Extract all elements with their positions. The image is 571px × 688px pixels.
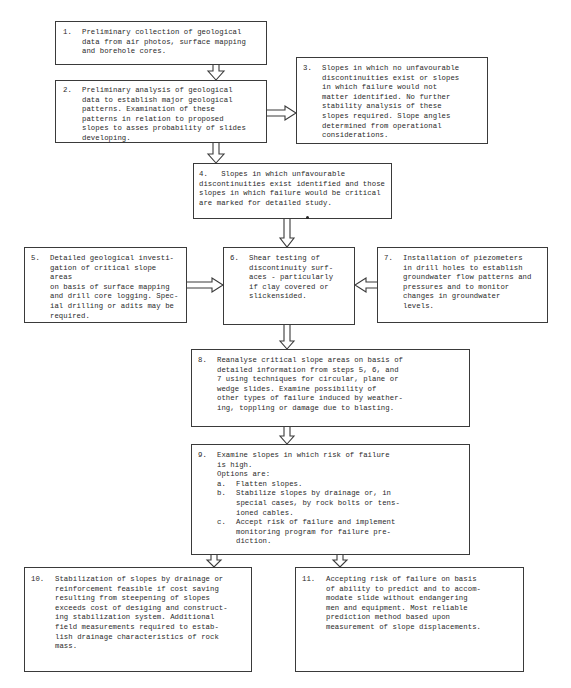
step-text: Preliminary collection of geological dat… bbox=[82, 28, 260, 57]
option-a: a. Flatten slopes. bbox=[217, 480, 464, 490]
arrow-9-to-10 bbox=[207, 555, 221, 567]
step-number: 4. bbox=[199, 170, 208, 178]
arrow-6-to-8 bbox=[280, 325, 294, 349]
step-number: 8. bbox=[198, 356, 217, 414]
arrow-2-to-4 bbox=[208, 143, 224, 163]
step-text: Reanalyse critical slope areas on basis … bbox=[217, 356, 464, 414]
step-9-box: 9. Examine slopes in which risk of failu… bbox=[191, 444, 470, 555]
step-text: Stabilization of slopes by drainage or r… bbox=[55, 575, 246, 652]
step-number: 3. bbox=[303, 64, 322, 141]
step-11-box: 11. Accepting risk of failure on basis o… bbox=[295, 567, 524, 672]
step-text: Slopes in which no unfavourable disconti… bbox=[322, 64, 481, 141]
option-b: b. Stabilize slopes by drainage or, in s… bbox=[217, 489, 464, 518]
stray-dot-mark bbox=[306, 216, 309, 219]
step-text: Installation of piezometers in drill hol… bbox=[403, 254, 543, 312]
step-number: 10. bbox=[31, 575, 55, 652]
step-number: 2. bbox=[63, 86, 82, 144]
step-text: Detailed geological investi- gation of c… bbox=[50, 254, 181, 321]
step-number: 6. bbox=[230, 254, 249, 302]
arrow-8-to-9 bbox=[280, 427, 294, 444]
step-7-box: 7. Installation of piezometers in drill … bbox=[377, 247, 548, 323]
arrow-4-to-6 bbox=[280, 219, 294, 247]
step-8-box: 8. Reanalyse critical slope areas on bas… bbox=[191, 349, 470, 427]
arrow-9-to-11 bbox=[333, 555, 347, 567]
option-label: c. bbox=[217, 518, 236, 547]
step-4-box: 4. Slopes in which unfavourable disconti… bbox=[193, 163, 392, 219]
option-text: Accept risk of failure and implement mon… bbox=[236, 518, 464, 547]
option-label: b. bbox=[217, 489, 236, 518]
step-text: Preliminary analysis of geological data … bbox=[82, 86, 260, 144]
option-text: Flatten slopes. bbox=[236, 480, 464, 490]
step-number: 5. bbox=[31, 254, 50, 321]
step-6-box: 6. Shear testing of discontinuity surf- … bbox=[223, 247, 355, 325]
step-1-box: 1. Preliminary collection of geological … bbox=[55, 21, 267, 65]
arrow-1-to-2 bbox=[208, 65, 224, 80]
step-number: 9. bbox=[198, 451, 217, 547]
step-3-box: 3. Slopes in which no unfavourable disco… bbox=[296, 57, 488, 144]
option-label: a. bbox=[217, 480, 236, 490]
step-5-box: 5. Detailed geological investi- gation o… bbox=[24, 247, 187, 323]
step-text: Examine slopes in which risk of failure … bbox=[217, 451, 464, 480]
step-text: Slopes in which unfavourable discontinui… bbox=[199, 170, 385, 207]
step-2-box: 2. Preliminary analysis of geological da… bbox=[55, 80, 267, 143]
step-text-block: 4. Slopes in which unfavourable disconti… bbox=[199, 170, 386, 208]
step-text: Accepting risk of failure on basis of ab… bbox=[326, 575, 518, 633]
step-number: 11. bbox=[302, 575, 326, 633]
step-10-box: 10. Stabilization of slopes by drainage … bbox=[24, 567, 252, 672]
option-c: c. Accept risk of failure and implement … bbox=[217, 518, 464, 547]
arrow-7-to-6 bbox=[355, 278, 377, 292]
arrow-5-to-6 bbox=[187, 278, 223, 292]
arrow-2-to-3 bbox=[267, 106, 296, 120]
step-text: Shear testing of discontinuity surf- ace… bbox=[249, 254, 350, 302]
step-number: 1. bbox=[63, 28, 82, 57]
option-text: Stabilize slopes by drainage or, in spec… bbox=[236, 489, 464, 518]
step-number: 7. bbox=[384, 254, 403, 312]
